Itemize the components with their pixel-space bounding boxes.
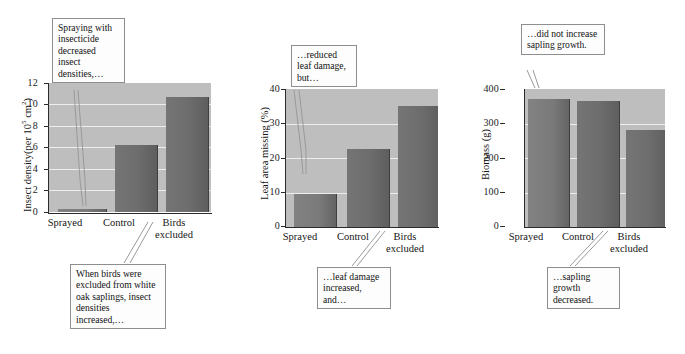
three-panel-bar-figure: Insect density(per 105 cm2) 12 10 8 6 4 …	[0, 0, 685, 354]
panel-leaf-area-missing: Leaf area missing (%) 40 30 20 10 0 Spra…	[230, 0, 455, 354]
callout-spraying-decreased: Spraying with insecticide decreased inse…	[52, 18, 125, 83]
callout-reduced-leaf-damage: …reduced leaf damage, but…	[291, 45, 357, 87]
callout-did-not-increase-sapling-growth: …did not increase sapling growth.	[521, 24, 605, 55]
panel-insect-density: Insect density(per 105 cm2) 12 10 8 6 4 …	[0, 0, 230, 354]
callout-leaf-damage-increased: …leaf damage increased, and…	[317, 267, 391, 309]
callout-sapling-growth-decreased: …sapling growth decreased.	[547, 267, 620, 309]
callout-birds-excluded-insect-density: When birds were excluded from white oak …	[70, 264, 166, 329]
panel-biomass: Biomass (g) 400 300 200 100 0 Sprayed Co…	[455, 0, 685, 354]
